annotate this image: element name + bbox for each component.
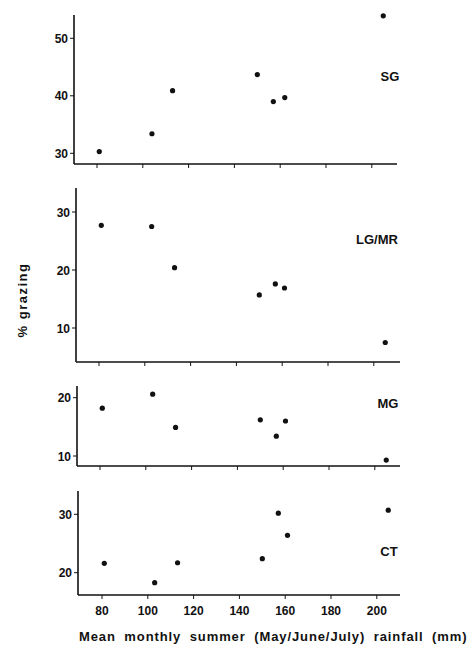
data-point [258, 417, 263, 422]
panel-label: SG [381, 69, 400, 84]
y-tick-label: 30 [57, 206, 71, 220]
data-point [282, 285, 287, 290]
x-tick-label: 120 [184, 604, 204, 618]
data-point [271, 99, 276, 104]
data-point [285, 533, 290, 538]
data-point [381, 13, 386, 18]
x-tick-label: 100 [138, 604, 158, 618]
data-point [97, 149, 102, 154]
y-tick-label: 20 [58, 391, 72, 405]
data-point [260, 556, 265, 561]
y-tick-label: 30 [59, 508, 73, 522]
data-point [172, 265, 177, 270]
data-point [175, 560, 180, 565]
data-point [99, 223, 104, 228]
y-axis-label: % grazing [15, 263, 30, 338]
y-tick-label: 40 [55, 89, 69, 103]
data-point [386, 508, 391, 513]
data-point [282, 95, 287, 100]
y-tick-label: 20 [57, 264, 71, 278]
data-point [173, 425, 178, 430]
x-tick-label: 180 [321, 604, 341, 618]
data-point [102, 561, 107, 566]
panel-ct: 801001201401601802002030CT [59, 491, 400, 618]
data-point [283, 418, 288, 423]
data-point [170, 88, 175, 93]
data-point [150, 392, 155, 397]
data-point [273, 281, 278, 286]
data-point [149, 224, 154, 229]
data-point [383, 340, 388, 345]
x-tick-label: 80 [95, 604, 109, 618]
data-point [274, 434, 279, 439]
y-tick-label: 10 [57, 322, 71, 336]
panel-label: LG/MR [356, 232, 398, 247]
data-point [152, 580, 157, 585]
data-point [257, 292, 262, 297]
x-tick-label: 160 [275, 604, 295, 618]
panel-lg-mr: 102030LG/MR [57, 188, 400, 366]
data-point [276, 511, 281, 516]
panel-label: CT [380, 544, 397, 559]
x-tick-label: 200 [367, 604, 387, 618]
panel-sg: 304050SG [55, 13, 400, 168]
y-tick-label: 30 [55, 147, 69, 161]
x-axis-label: Mean monthly summer (May/June/July) rain… [79, 629, 467, 644]
x-tick-label: 140 [229, 604, 249, 618]
y-tick-label: 50 [55, 32, 69, 46]
y-tick-label: 20 [59, 566, 73, 580]
panel-label: MG [378, 396, 399, 411]
data-point [384, 457, 389, 462]
panel-mg: 1020MG [58, 386, 400, 470]
data-point [149, 131, 154, 136]
y-tick-label: 10 [58, 450, 72, 464]
data-point [100, 406, 105, 411]
data-point [255, 72, 260, 77]
